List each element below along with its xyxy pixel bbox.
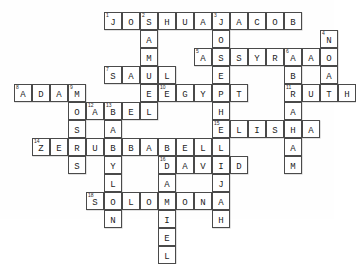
crossword-cell[interactable]: B [284,66,302,84]
crossword-cell[interactable]: G [176,84,194,102]
crossword-cell[interactable]: A [302,120,320,138]
crossword-cell[interactable]: E [50,138,68,156]
crossword-cell[interactable]: L [140,102,158,120]
crossword-cell[interactable]: L [158,246,176,264]
crossword-cell[interactable]: O [266,12,284,30]
crossword-cell[interactable]: S [68,120,86,138]
crossword-cell[interactable]: H [338,84,356,102]
crossword-cell[interactable]: S [68,156,86,174]
crossword-cell[interactable]: I [158,210,176,228]
crossword-cell[interactable]: 2S [140,12,158,30]
crossword-cell[interactable]: 15E [212,120,230,138]
crossword-cell[interactable]: T [230,84,248,102]
crossword-cell[interactable]: N [104,210,122,228]
crossword-cell[interactable]: D [230,156,248,174]
crossword-cell[interactable]: 9M [68,84,86,102]
cell-letter: N [195,198,211,209]
crossword-cell[interactable]: 13B [104,102,122,120]
crossword-cell[interactable]: L [194,138,212,156]
crossword-cell[interactable]: Y [104,156,122,174]
crossword-cell[interactable]: A [122,66,140,84]
crossword-cell[interactable]: 1J [104,12,122,30]
crossword-cell[interactable]: M [284,156,302,174]
crossword-cell[interactable]: E [122,102,140,120]
crossword-cell[interactable]: U [176,12,194,30]
crossword-cell[interactable]: B [104,138,122,156]
crossword-cell[interactable]: O [68,102,86,120]
crossword-cell[interactable]: S [230,48,248,66]
crossword-cell[interactable]: O [104,192,122,210]
crossword-cell[interactable]: 10E [158,84,176,102]
crossword-cell[interactable]: A [50,84,68,102]
crossword-cell[interactable]: O [320,48,338,66]
crossword-cell[interactable]: 6A [284,48,302,66]
crossword-cell[interactable]: 18S [86,192,104,210]
crossword-cell[interactable]: O [212,30,230,48]
crossword-cell[interactable]: U [86,138,104,156]
crossword-cell[interactable]: A [212,192,230,210]
crossword-cell[interactable]: 16D [158,156,176,174]
crossword-cell[interactable]: 7S [104,66,122,84]
crossword-cell[interactable]: 3J [212,12,230,30]
crossword-cell[interactable]: M [158,192,176,210]
crossword-cell[interactable]: O [122,12,140,30]
crossword-cell[interactable]: 5A [194,48,212,66]
crossword-cell[interactable]: 4N [320,30,338,48]
crossword-cell[interactable]: M [140,48,158,66]
crossword-cell[interactable]: P [212,84,230,102]
crossword-cell[interactable]: R [266,48,284,66]
crossword-cell[interactable]: H [212,102,230,120]
crossword-cell[interactable]: N [194,192,212,210]
crossword-cell[interactable]: A [140,30,158,48]
crossword-cell[interactable]: H [284,120,302,138]
crossword-cell[interactable]: B [284,12,302,30]
crossword-cell[interactable]: T [320,84,338,102]
crossword-cell[interactable]: E [176,138,194,156]
cell-letter: L [105,180,121,191]
crossword-cell[interactable]: V [194,156,212,174]
crossword-cell[interactable]: I [212,156,230,174]
crossword-cell[interactable]: C [248,12,266,30]
crossword-cell[interactable]: O [176,192,194,210]
crossword-cell[interactable]: A [140,138,158,156]
crossword-cell[interactable]: A [284,138,302,156]
crossword-cell[interactable]: A [104,120,122,138]
cell-letter: D [159,162,175,173]
crossword-cell[interactable]: A [302,48,320,66]
crossword-cell[interactable]: J [212,174,230,192]
crossword-cell[interactable]: L [122,192,140,210]
crossword-cell[interactable]: B [122,138,140,156]
crossword-cell[interactable]: S [212,48,230,66]
crossword-cell[interactable]: Y [248,48,266,66]
crossword-cell[interactable]: A [158,174,176,192]
crossword-cell[interactable]: U [140,66,158,84]
crossword-cell[interactable]: A [320,66,338,84]
crossword-cell[interactable]: U [302,84,320,102]
crossword-cell[interactable]: Y [194,84,212,102]
crossword-cell[interactable]: H [158,12,176,30]
crossword-cell[interactable]: A [230,12,248,30]
crossword-cell[interactable]: S [266,120,284,138]
crossword-cell[interactable]: R [68,138,86,156]
crossword-cell[interactable]: L [212,138,230,156]
crossword-cell[interactable]: I [248,120,266,138]
crossword-cell[interactable]: H [212,210,230,228]
crossword-cell[interactable]: B [158,138,176,156]
crossword-cell[interactable]: O [140,192,158,210]
crossword-cell[interactable]: 11R [284,84,302,102]
crossword-cell[interactable]: 14Z [32,138,50,156]
crossword-cell[interactable]: L [104,174,122,192]
crossword-cell[interactable]: E [140,84,158,102]
crossword-cell[interactable]: L [158,66,176,84]
crossword-cell[interactable]: L [230,120,248,138]
crossword-cell[interactable]: A [194,12,212,30]
crossword-cell[interactable]: D [32,84,50,102]
crossword-cell[interactable]: E [158,228,176,246]
crossword-cell[interactable]: 8A [14,84,32,102]
crossword-cell[interactable]: A [176,156,194,174]
crossword-cell[interactable]: E [212,66,230,84]
crossword-cell[interactable]: A [284,102,302,120]
crossword-cell[interactable]: 12A [86,102,104,120]
